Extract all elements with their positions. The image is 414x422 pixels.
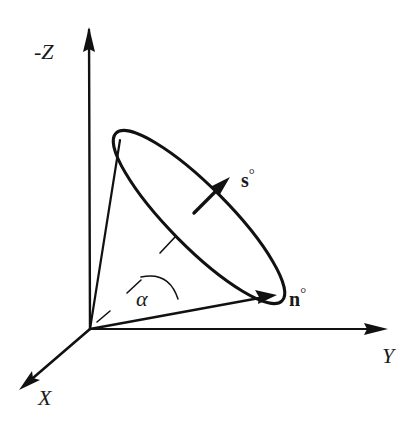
s-vector-label: s° bbox=[241, 166, 255, 191]
y-axis bbox=[90, 323, 388, 335]
cone-base-ellipse bbox=[95, 112, 304, 322]
s-vector bbox=[194, 177, 230, 213]
z-axis-label: -Z bbox=[34, 39, 54, 64]
cone-axis-dash-3 bbox=[160, 236, 176, 253]
x-axis bbox=[19, 329, 90, 390]
cone bbox=[90, 112, 303, 329]
n-vector-letter: n bbox=[289, 288, 300, 310]
alpha-label: α bbox=[136, 286, 148, 311]
y-axis-label: Y bbox=[382, 343, 397, 368]
s-vector-degree: ° bbox=[249, 166, 255, 182]
n-vector-label: n° bbox=[289, 285, 306, 310]
n-vector-line bbox=[90, 297, 265, 329]
s-vector-letter: s bbox=[241, 169, 249, 191]
z-axis-arrow-icon bbox=[83, 27, 95, 52]
x-axis-line bbox=[26, 329, 90, 384]
cone-edge-left bbox=[90, 140, 120, 329]
cone-axis-dash-1 bbox=[97, 311, 110, 322]
z-axis bbox=[83, 27, 95, 329]
n-vector-degree: ° bbox=[300, 285, 306, 301]
z-axis-line bbox=[89, 30, 90, 329]
cone-diagram: -Z Y X α s° n° bbox=[0, 0, 414, 422]
x-axis-label: X bbox=[37, 385, 53, 410]
y-axis-arrow-icon bbox=[364, 323, 388, 335]
